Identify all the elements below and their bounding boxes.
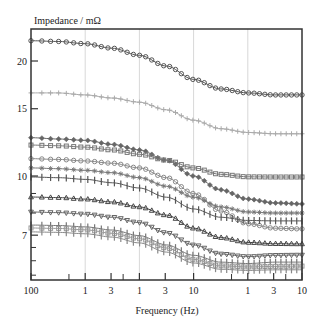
series-star [29, 165, 305, 215]
series-plus [29, 90, 305, 136]
impedance-chart: 2015107 1001313101310 Impedance / mΩ Fre… [0, 0, 322, 325]
x-tick-label: 1 [137, 285, 142, 296]
y-axis-label: Impedance / mΩ [34, 15, 101, 26]
x-tick-label: 3 [271, 285, 276, 296]
x-tick-label: 1 [245, 285, 250, 296]
y-tick-label: 20 [17, 56, 27, 67]
data-series [29, 39, 305, 274]
x-tick-label: 3 [109, 285, 114, 296]
series-square [29, 143, 304, 179]
series-circle [29, 39, 304, 98]
x-tick-label: 100 [24, 285, 39, 296]
y-axis-ticks: 2015107 [17, 56, 38, 276]
series-circle [29, 156, 304, 231]
y-tick-label: 7 [22, 230, 27, 241]
grid-lines [85, 29, 248, 280]
x-axis-ticks: 1001313101310 [24, 273, 308, 296]
x-axis-label: Frequency (Hz) [135, 305, 198, 317]
plot-frame [31, 29, 302, 280]
x-tick-label: 10 [189, 285, 199, 296]
x-tick-label: 3 [163, 285, 168, 296]
y-tick-label: 15 [17, 103, 27, 114]
x-tick-label: 1 [83, 285, 88, 296]
x-tick-label: 10 [297, 285, 307, 296]
y-tick-label: 10 [17, 171, 27, 182]
